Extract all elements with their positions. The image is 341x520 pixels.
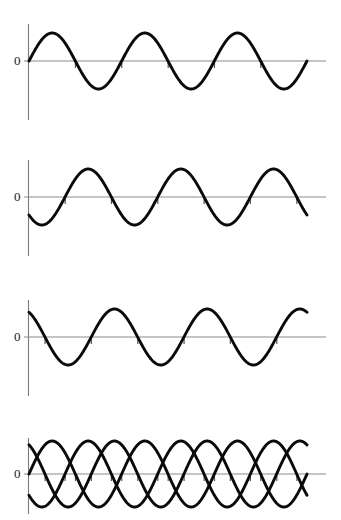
panel-1: 0 bbox=[0, 0, 341, 130]
waveform-figure: 0 0 0 0 bbox=[0, 0, 341, 520]
panel-2-tickmarks bbox=[65, 198, 297, 204]
panel-3-tickmarks bbox=[45, 338, 277, 344]
panel-1-plot bbox=[0, 0, 341, 130]
panel-4-plot bbox=[0, 413, 341, 520]
panel-2-zero-label: 0 bbox=[14, 190, 21, 203]
panel-2-plot bbox=[0, 136, 341, 266]
panel-2: 0 bbox=[0, 136, 341, 266]
panel-3-plot bbox=[0, 276, 341, 406]
panel-4-zero-label: 0 bbox=[14, 467, 21, 480]
panel-3-zero-label: 0 bbox=[14, 330, 21, 343]
panel-3: 0 bbox=[0, 276, 341, 406]
panel-4-superposition: 0 bbox=[0, 413, 341, 520]
panel-1-zero-label: 0 bbox=[14, 54, 21, 67]
